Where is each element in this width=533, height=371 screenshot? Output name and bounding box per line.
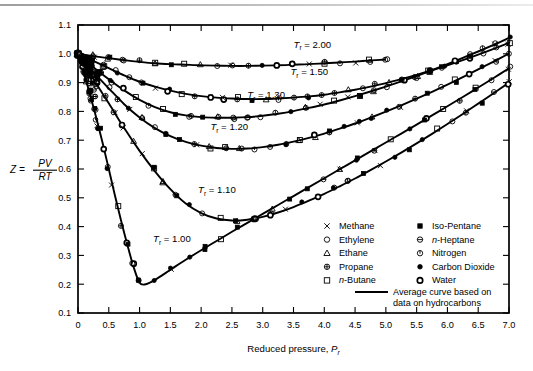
legend-label: Ethylene bbox=[339, 235, 374, 245]
bold-circle-marker bbox=[208, 95, 213, 100]
x-tick-label: 1.0 bbox=[133, 320, 146, 330]
y-tick-label: 0.9 bbox=[58, 78, 71, 88]
isotherm-label-text: Tr = 1.00 bbox=[153, 233, 191, 245]
legend-label: Carbon Dioxide bbox=[432, 262, 495, 272]
isotherm-label: Tr = 1.00 bbox=[153, 233, 191, 245]
filled-square-marker bbox=[93, 107, 97, 111]
filled-square-marker bbox=[361, 171, 365, 175]
x-tick-label: 0 bbox=[75, 320, 80, 330]
filled-circle-marker bbox=[369, 116, 373, 120]
y-axis-title-numerator: PV bbox=[38, 158, 53, 169]
isotherm-label-text: Tr = 1.30 bbox=[247, 89, 285, 101]
filled-square-marker bbox=[178, 138, 182, 142]
legend-label: Propane bbox=[339, 262, 373, 272]
filled-square-marker bbox=[235, 225, 239, 229]
filled-circle-marker bbox=[342, 124, 346, 128]
chart-canvas: 00.51.01.52.02.53.03.54.04.55.05.56.06.5… bbox=[0, 0, 533, 371]
y-tick-label: 0.7 bbox=[58, 136, 71, 146]
isotherm-label: Tr = 1.50 bbox=[290, 66, 328, 78]
bold-circle-marker bbox=[452, 58, 457, 63]
filled-square-marker bbox=[305, 187, 309, 191]
y-axis-title: Z =PVRT bbox=[9, 158, 57, 182]
filled-square-marker bbox=[328, 129, 332, 133]
filled-square-marker bbox=[473, 87, 477, 91]
curve-annotations-layer: Tr = 2.00Tr = 1.50Tr = 1.30Tr = 1.20Tr =… bbox=[153, 39, 331, 246]
y-tick-label: 0.1 bbox=[58, 308, 71, 318]
legend-label: Ethane bbox=[339, 248, 368, 258]
y-axis-title-denominator: RT bbox=[38, 171, 52, 182]
bold-circle-marker bbox=[316, 194, 321, 199]
x-tick-label: 2.5 bbox=[226, 320, 239, 330]
y-tick-label: 0.5 bbox=[58, 193, 71, 203]
bold-circle-marker bbox=[274, 63, 279, 68]
x-tick-label: 6.5 bbox=[472, 320, 485, 330]
bold-circle-marker bbox=[312, 132, 317, 137]
filled-circle-marker bbox=[408, 127, 412, 131]
filled-circle-marker bbox=[168, 266, 172, 270]
filled-circle-marker bbox=[152, 278, 156, 282]
legend-label: Iso-Pentane bbox=[432, 221, 481, 231]
bold-circle-marker bbox=[165, 89, 170, 94]
filled-square-marker bbox=[439, 65, 443, 69]
filled-square-marker bbox=[454, 80, 458, 84]
y-axis-title-z: Z = bbox=[9, 164, 25, 175]
y-tick-label: 0.2 bbox=[58, 280, 71, 290]
filled-square-marker bbox=[201, 115, 205, 119]
filled-circle-marker bbox=[420, 138, 424, 142]
isotherm-label: Tr = 1.20 bbox=[210, 121, 248, 133]
x-tick-label: 6.0 bbox=[441, 320, 454, 330]
filled-square-marker bbox=[425, 91, 429, 95]
filled-circle-marker bbox=[393, 155, 397, 159]
bold-circle-marker bbox=[467, 72, 472, 77]
y-tick-label: 0.3 bbox=[58, 251, 71, 261]
filled-square-marker bbox=[126, 242, 130, 246]
y-tick-label: 0.6 bbox=[58, 164, 71, 174]
x-tick-label: 4.0 bbox=[318, 320, 331, 330]
legend-label: n-Butane bbox=[339, 275, 376, 285]
x-tick-label: 3.5 bbox=[287, 320, 300, 330]
y-tick-label: 1.0 bbox=[58, 49, 71, 59]
filled-circle-marker bbox=[300, 200, 304, 204]
filled-circle-marker bbox=[188, 255, 192, 259]
legend-average-curve-label-1: Average curve based on bbox=[393, 287, 491, 297]
filled-square-marker bbox=[173, 112, 177, 116]
isotherm-label: Tr = 2.00 bbox=[294, 39, 332, 51]
filled-circle-marker bbox=[418, 265, 423, 270]
filled-circle-marker bbox=[164, 131, 168, 135]
legend-label: Water bbox=[432, 275, 456, 285]
filled-circle-marker bbox=[354, 158, 358, 162]
filled-square-marker bbox=[480, 101, 484, 105]
open-circle-marker bbox=[324, 237, 329, 242]
cross-x-marker bbox=[324, 223, 329, 228]
filled-square-marker bbox=[169, 63, 173, 67]
x-tick-label: 4.5 bbox=[349, 320, 362, 330]
filled-circle-marker bbox=[428, 69, 432, 73]
y-tick-label: 0.8 bbox=[58, 107, 71, 117]
x-tick-label: 1.5 bbox=[164, 320, 177, 330]
filled-circle-marker bbox=[480, 65, 484, 69]
filled-square-marker bbox=[288, 197, 292, 201]
filled-circle-marker bbox=[260, 63, 264, 67]
filled-square-marker bbox=[108, 55, 112, 59]
x-tick-label: 7.0 bbox=[503, 320, 516, 330]
filled-circle-marker bbox=[289, 110, 293, 114]
open-triangle-marker bbox=[324, 250, 330, 256]
filled-circle-marker bbox=[187, 202, 191, 206]
isotherm-label-text: Tr = 1.20 bbox=[210, 121, 248, 133]
bold-circle-marker bbox=[417, 278, 422, 283]
filled-square-marker bbox=[141, 81, 145, 85]
y-tick-label: 1.1 bbox=[58, 20, 71, 30]
filled-circle-marker bbox=[96, 127, 100, 131]
isotherm-label-text: Tr = 1.10 bbox=[198, 184, 236, 196]
filled-square-marker bbox=[418, 224, 422, 228]
y-tick-label: 0.4 bbox=[58, 222, 71, 232]
filled-circle-marker bbox=[385, 108, 389, 112]
filled-square-marker bbox=[152, 165, 156, 169]
isotherm-label-text: Tr = 1.50 bbox=[290, 66, 328, 78]
open-square-marker bbox=[324, 278, 329, 283]
filled-square-marker bbox=[407, 148, 411, 152]
compressibility-factor-chart: 00.51.01.52.02.53.03.54.04.55.05.56.06.5… bbox=[0, 0, 533, 371]
filled-square-marker bbox=[423, 118, 427, 122]
bold-circle-marker bbox=[268, 213, 273, 218]
legend-label: Methane bbox=[339, 221, 374, 231]
